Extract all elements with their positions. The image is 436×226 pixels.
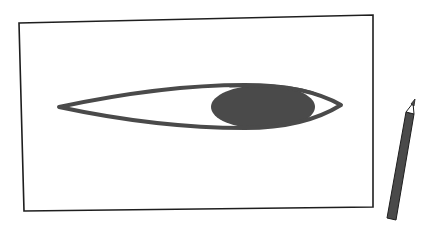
illustration-scene [0,0,436,226]
pencil-body [387,112,414,220]
paper-sheet [19,15,373,211]
pencil-icon [387,99,415,220]
